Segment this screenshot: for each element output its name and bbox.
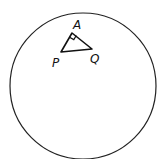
diagram-canvas: A P Q (0, 0, 163, 159)
label-q: Q (90, 52, 99, 66)
label-p: P (52, 56, 60, 70)
large-circle (10, 13, 156, 159)
label-a: A (72, 18, 81, 32)
